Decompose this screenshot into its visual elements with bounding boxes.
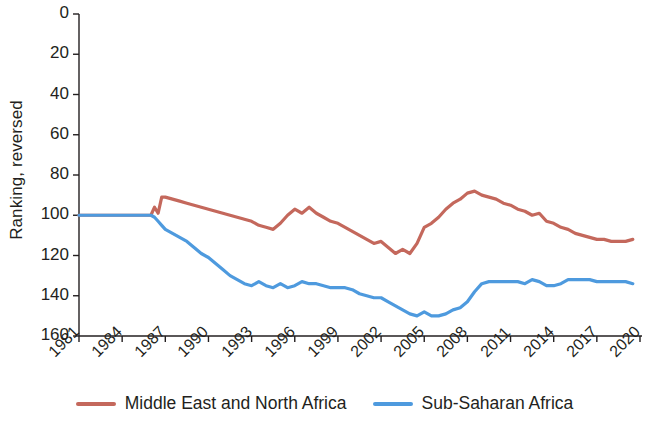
line-chart: Ranking, reversed 020406080100120140160 … bbox=[0, 0, 649, 428]
chart-legend: Middle East and North AfricaSub-Saharan … bbox=[0, 393, 649, 414]
axis-lines bbox=[79, 14, 642, 336]
legend-item[interactable]: Middle East and North Africa bbox=[76, 393, 347, 414]
series-line bbox=[79, 191, 633, 253]
y-tick-label: 60 bbox=[29, 124, 69, 144]
plot-area bbox=[0, 0, 649, 428]
series-line bbox=[79, 215, 633, 316]
y-tick-label: 120 bbox=[29, 245, 69, 265]
legend-item[interactable]: Sub-Saharan Africa bbox=[373, 393, 574, 414]
y-tick-label: 0 bbox=[29, 3, 69, 23]
legend-color-swatch bbox=[76, 402, 116, 406]
y-tick-marks bbox=[73, 14, 79, 336]
legend-color-swatch bbox=[373, 402, 413, 406]
y-tick-label: 40 bbox=[29, 84, 69, 104]
y-tick-label: 20 bbox=[29, 43, 69, 63]
series-lines bbox=[79, 191, 633, 316]
legend-label: Sub-Saharan Africa bbox=[422, 393, 574, 414]
y-tick-label: 80 bbox=[29, 164, 69, 184]
y-tick-label: 100 bbox=[29, 204, 69, 224]
legend-label: Middle East and North Africa bbox=[125, 393, 347, 414]
y-tick-label: 140 bbox=[29, 285, 69, 305]
